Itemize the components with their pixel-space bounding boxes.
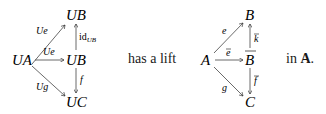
suffix-prefix: in xyxy=(286,51,297,66)
node-a: A xyxy=(200,52,211,68)
edge-label-ue-diag: Ue xyxy=(36,25,48,36)
edge-label-f-bar: f xyxy=(254,75,258,86)
node-ub-top: UB xyxy=(66,7,86,23)
connective-text: has a lift xyxy=(128,51,176,67)
category-name: A xyxy=(300,51,310,66)
edge-label-ug: Ug xyxy=(36,81,48,92)
edge-label-g: g xyxy=(222,82,227,93)
arrow-a-to-c xyxy=(214,67,243,96)
node-b-top: B xyxy=(245,7,254,23)
edge-label-ue-horizontal: Ue xyxy=(43,46,55,57)
edge-label-e-diag: e xyxy=(222,25,227,36)
edge-label-k-bar: k xyxy=(254,33,259,44)
node-ub-middle: UB xyxy=(66,52,86,68)
node-b-bar: B xyxy=(245,52,254,68)
suffix-text: in A. xyxy=(286,51,314,67)
edge-label-id: idUB xyxy=(79,31,97,44)
node-c: C xyxy=(245,94,256,110)
node-uc: UC xyxy=(66,94,88,110)
edge-label-f: f xyxy=(80,74,84,85)
node-ua: UA xyxy=(12,52,33,68)
suffix-period: . xyxy=(311,51,315,66)
